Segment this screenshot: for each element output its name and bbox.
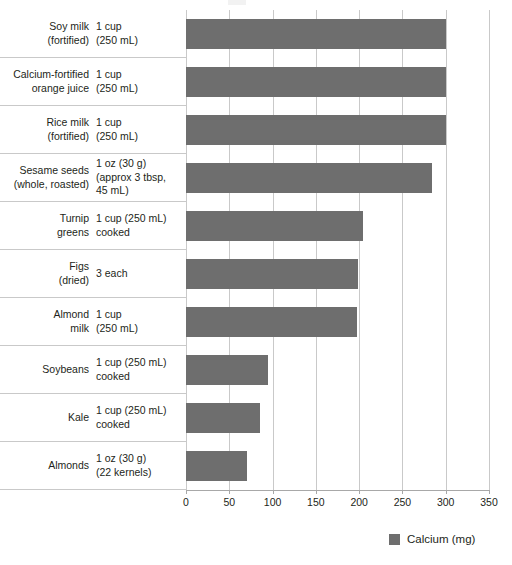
food-name-label: Rice milk (fortified): [0, 116, 96, 143]
x-axis-tick-mark: [489, 490, 490, 494]
food-name-label: Sesame seeds (whole, roasted): [0, 164, 96, 191]
x-axis-tick-mark: [446, 490, 447, 494]
serving-size-label: 1 cup (250 mL) cooked: [96, 212, 186, 239]
table-row: Sesame seeds (whole, roasted)1 oz (30 g)…: [0, 154, 186, 202]
serving-size-label: 1 oz (30 g) (22 kernels): [96, 452, 186, 479]
x-axis-tick-label: 0: [166, 496, 206, 508]
bar: [186, 115, 446, 145]
serving-size-label: 3 each: [96, 267, 186, 281]
bar: [186, 355, 268, 385]
food-name-label: Turnip greens: [0, 212, 96, 239]
table-row: Calcium-fortified orange juice1 cup (250…: [0, 58, 186, 106]
serving-size-label: 1 cup (250 mL): [96, 68, 186, 95]
serving-size-label: 1 cup (250 mL): [96, 116, 186, 143]
serving-size-label: 1 cup (250 mL): [96, 308, 186, 335]
bar: [186, 451, 247, 481]
table-row: Figs (dried)3 each: [0, 250, 186, 298]
serving-size-label: 1 cup (250 mL) cooked: [96, 404, 186, 431]
x-axis-tick-mark: [316, 490, 317, 494]
x-axis-tick-label: 200: [339, 496, 379, 508]
legend-label: Calcium (mg): [407, 533, 475, 545]
food-name-label: Soy milk (fortified): [0, 20, 96, 47]
x-axis-line: [186, 490, 489, 491]
table-row: Turnip greens1 cup (250 mL) cooked: [0, 202, 186, 250]
x-axis-tick-label: 350: [469, 496, 509, 508]
serving-size-label: 1 cup (250 mL): [96, 20, 186, 47]
x-axis-tick-mark: [359, 490, 360, 494]
table-row: Almond milk1 cup (250 mL): [0, 298, 186, 346]
gridline: [489, 10, 490, 490]
serving-size-label: 1 oz (30 g) (approx 3 tbsp, 45 mL): [96, 157, 186, 198]
x-axis-tick-label: 250: [382, 496, 422, 508]
plot-area: [186, 10, 489, 490]
x-axis-tick-mark: [186, 490, 187, 494]
bar: [186, 67, 446, 97]
bar: [186, 403, 260, 433]
table-row: Soybeans1 cup (250 mL) cooked: [0, 346, 186, 394]
legend-color-swatch: [389, 534, 400, 545]
table-row: Kale1 cup (250 mL) cooked: [0, 394, 186, 442]
food-name-label: Soybeans: [0, 363, 96, 377]
scan-artifact: [228, 0, 246, 5]
table-row: Rice milk (fortified)1 cup (250 mL): [0, 106, 186, 154]
x-axis-tick-label: 300: [426, 496, 466, 508]
x-axis-tick-mark: [402, 490, 403, 494]
table-row: Almonds1 oz (30 g) (22 kernels): [0, 442, 186, 490]
food-name-label: Calcium-fortified orange juice: [0, 68, 96, 95]
food-name-label: Kale: [0, 411, 96, 425]
x-axis-tick-label: 50: [209, 496, 249, 508]
x-axis-tick-label: 150: [296, 496, 336, 508]
x-axis-tick-label: 100: [253, 496, 293, 508]
bar: [186, 163, 432, 193]
food-name-label: Almond milk: [0, 308, 96, 335]
category-label-column: Soy milk (fortified)1 cup (250 mL)Calciu…: [0, 10, 186, 490]
calcium-content-bar-chart: Soy milk (fortified)1 cup (250 mL)Calciu…: [0, 0, 512, 565]
chart-legend: Calcium (mg): [389, 533, 475, 545]
x-axis-tick-mark: [229, 490, 230, 494]
food-name-label: Figs (dried): [0, 260, 96, 287]
bar: [186, 259, 358, 289]
gridline: [446, 10, 447, 490]
food-name-label: Almonds: [0, 459, 96, 473]
bar: [186, 211, 363, 241]
serving-size-label: 1 cup (250 mL) cooked: [96, 356, 186, 383]
table-row: Soy milk (fortified)1 cup (250 mL): [0, 10, 186, 58]
x-axis-tick-mark: [273, 490, 274, 494]
bar: [186, 19, 446, 49]
bar: [186, 307, 357, 337]
